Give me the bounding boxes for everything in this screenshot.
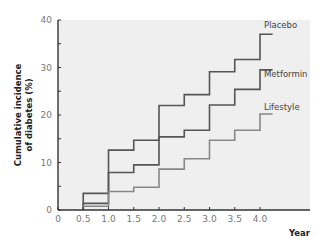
y-tick-label: 30 xyxy=(41,63,53,73)
y-axis-title-line: of diabetes (%) xyxy=(24,78,34,151)
y-axis-title-line: Cumulative incidence xyxy=(13,63,23,166)
y-tick-label: 0 xyxy=(46,205,52,215)
series-label-placebo: Placebo xyxy=(264,20,297,30)
x-tick-label: 0 xyxy=(55,214,61,224)
y-tick-label: 40 xyxy=(41,15,53,25)
step-chart: 01020304000.51.01.52.02.53.03.54.0YearCu… xyxy=(0,0,324,247)
x-tick-label: 1.5 xyxy=(127,214,141,224)
y-tick-label: 10 xyxy=(41,158,53,168)
x-tick-label: 3.0 xyxy=(202,214,217,224)
x-axis-title: Year xyxy=(288,228,311,238)
x-tick-label: 3.5 xyxy=(228,214,242,224)
x-tick-label: 2.5 xyxy=(177,214,191,224)
series-label-lifestyle: Lifestyle xyxy=(264,102,300,112)
y-axis-title: Cumulative incidenceof diabetes (%) xyxy=(13,63,34,166)
x-tick-label: 4.0 xyxy=(253,214,268,224)
x-tick-label: 1.0 xyxy=(101,214,116,224)
y-tick-label: 20 xyxy=(41,110,53,120)
x-tick-label: 0.5 xyxy=(76,214,90,224)
plot-background xyxy=(58,20,310,210)
series-label-metformin: Metformin xyxy=(264,69,307,79)
x-tick-label: 2.0 xyxy=(152,214,167,224)
